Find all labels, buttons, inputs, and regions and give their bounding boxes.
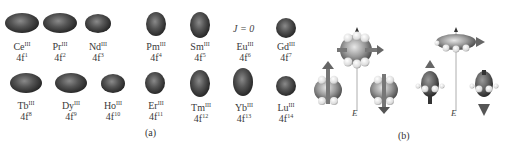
prolate-complex-down (470, 70, 499, 116)
e-field-label-right: E (451, 108, 457, 118)
oblate-complex-up (314, 61, 342, 105)
prolate-complex-horizontal (435, 34, 486, 53)
panel-b-label: (b) (398, 130, 410, 141)
oblate-complex-horizontal (337, 32, 384, 69)
e-field-label-left: E (352, 108, 358, 118)
oblate-complex-down (370, 74, 398, 114)
prolate-complex-up (416, 60, 445, 104)
field-orientation-diagram (0, 0, 509, 147)
